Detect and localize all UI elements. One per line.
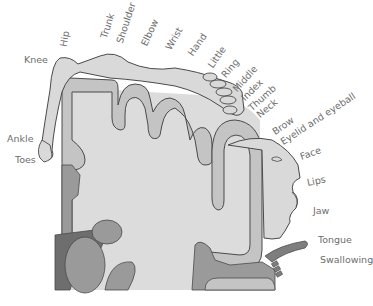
label-swallowing: Swallowing bbox=[320, 255, 373, 265]
label-hip: Hip bbox=[59, 30, 71, 47]
deep-nucleus-large bbox=[65, 237, 105, 293]
label-ankle: Ankle bbox=[7, 134, 34, 144]
homunculus-tongue bbox=[265, 241, 308, 262]
label-tongue: Tongue bbox=[318, 235, 352, 245]
label-jaw: Jaw bbox=[313, 206, 329, 216]
label-knee: Knee bbox=[24, 55, 48, 65]
label-toes: Toes bbox=[15, 155, 36, 165]
cortex-lower-band bbox=[205, 278, 275, 290]
deep-nucleus-small bbox=[92, 220, 122, 244]
